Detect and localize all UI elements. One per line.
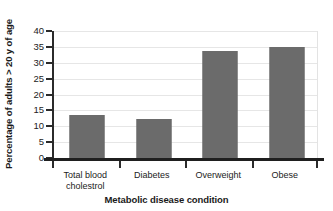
bar — [269, 47, 304, 158]
x-axis-tick-mark — [119, 161, 121, 168]
x-axis-tick-mark — [185, 161, 187, 168]
plot-area — [52, 31, 318, 158]
bar-slot — [121, 31, 188, 158]
bar — [136, 119, 171, 158]
x-axis-tick-mark — [252, 161, 254, 168]
bar-series — [54, 31, 317, 158]
x-axis-tick-label: Overweight — [185, 170, 252, 181]
x-axis-tick-labels: Total bloodcholestrolDiabetesOverweightO… — [52, 170, 318, 194]
x-axis-tick-mark — [316, 161, 318, 168]
x-axis-tick-mark — [52, 161, 54, 168]
bar-slot — [254, 31, 321, 158]
x-axis-tick-label: Diabetes — [119, 170, 186, 181]
bar-chart-figure: Percentage of adults > 20 y of age 05101… — [0, 0, 333, 211]
bar — [203, 51, 238, 158]
bar — [70, 115, 105, 158]
x-axis-tick-label: Obese — [252, 170, 319, 181]
x-axis-tick-marks — [52, 161, 318, 168]
y-axis-tick-marks — [0, 31, 56, 158]
x-axis-title: Metabolic disease condition — [0, 194, 333, 205]
bar-slot — [54, 31, 121, 158]
x-axis-tick-label: Total bloodcholestrol — [52, 170, 119, 192]
bar-slot — [187, 31, 254, 158]
